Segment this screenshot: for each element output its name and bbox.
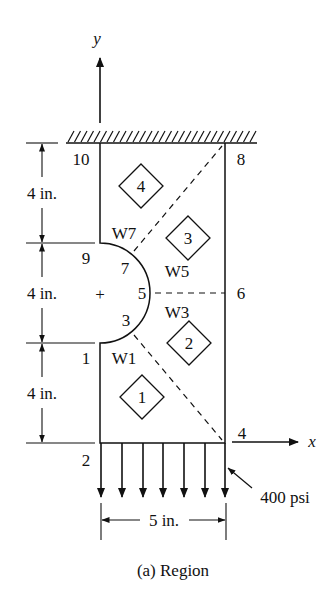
dimension-width: 5 in. — [149, 511, 179, 530]
node-label-1: 1 — [82, 349, 91, 368]
dimension-bottom: 4 in. — [27, 384, 57, 403]
element-dividers — [134, 146, 225, 440]
node-label-6: 6 — [237, 284, 246, 303]
weight-label-w7: W7 — [112, 224, 137, 243]
fixed-wall-hatch — [66, 131, 257, 143]
element-markers — [119, 164, 211, 419]
node-label-7: 7 — [121, 259, 130, 278]
element-label-2: 2 — [185, 334, 194, 353]
center-mark: + — [95, 285, 105, 304]
region-diagram: y 4 3 2 1 10 8 9 7 5 6 3 1 2 4 W7 W5 W3 … — [0, 0, 335, 609]
weight-label-w5: W5 — [165, 262, 190, 281]
node-label-9: 9 — [82, 249, 91, 268]
element-label-4: 4 — [137, 177, 146, 196]
figure-caption: (a) Region — [137, 561, 210, 580]
node-label-8: 8 — [237, 150, 246, 169]
load-label: 400 psi — [260, 488, 310, 507]
distributed-load-arrows — [101, 443, 225, 497]
element-label-1: 1 — [138, 388, 147, 407]
dimension-middle: 4 in. — [27, 284, 57, 303]
x-axis-label: x — [307, 432, 316, 451]
node-label-2: 2 — [82, 451, 91, 470]
node-label-4: 4 — [238, 424, 247, 443]
dimension-top: 4 in. — [27, 184, 57, 203]
y-axis-label: y — [91, 29, 101, 48]
node-label-3: 3 — [122, 311, 131, 330]
element-label-3: 3 — [184, 229, 193, 248]
weight-label-w3: W3 — [165, 303, 190, 322]
load-leader — [228, 468, 252, 488]
node-label-5: 5 — [138, 284, 147, 303]
node-label-10: 10 — [73, 150, 90, 169]
weight-label-w1: W1 — [112, 349, 137, 368]
